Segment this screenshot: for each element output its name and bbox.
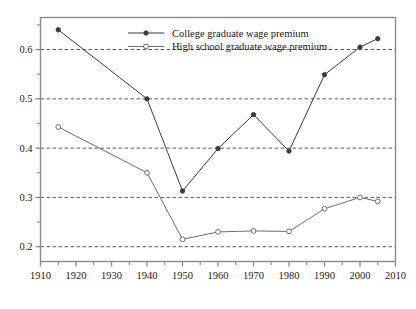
data-point-1980-0.394 [287, 149, 291, 153]
y-tick-label-0.3: 0.3 [19, 192, 32, 203]
x-tick-label-1970: 1970 [243, 270, 264, 281]
x-tick-label-2010: 2010 [385, 270, 406, 281]
legend-label-1: High school graduate wage premium [172, 41, 327, 52]
x-axis-tick-labels: 1910192019301940195019601970198019902000… [30, 270, 406, 281]
data-point-1915-0.64 [56, 28, 60, 32]
x-tick-label-1910: 1910 [30, 270, 51, 281]
x-tick-label-1990: 1990 [314, 270, 335, 281]
x-tick-label-1920: 1920 [66, 270, 87, 281]
legend-label-0: College graduate wage premium [172, 28, 309, 39]
data-point-1980-0.231 [287, 229, 292, 234]
data-point-1970-0.232 [251, 229, 256, 234]
x-tick-label-1940: 1940 [137, 270, 158, 281]
y-tick-label-0.5: 0.5 [19, 93, 32, 104]
x-tick-label-1980: 1980 [279, 270, 300, 281]
data-point-1950-0.215 [180, 237, 185, 242]
chart-canvas: 0.20.30.40.50.6 191019201930194019501960… [0, 0, 416, 309]
data-point-1960-0.399 [216, 146, 220, 150]
x-tick-label-1960: 1960 [208, 270, 229, 281]
data-point-2000-0.605 [358, 45, 362, 49]
y-tick-label-0.6: 0.6 [19, 44, 32, 55]
x-tick-label-2000: 2000 [350, 270, 371, 281]
legend-open-circle-icon [144, 44, 149, 49]
data-point-1940-0.5 [145, 97, 149, 101]
y-tick-label-0.2: 0.2 [19, 241, 32, 252]
data-point-2005-0.292 [375, 199, 380, 204]
wage-premium-line-chart: 0.20.30.40.50.6 191019201930194019501960… [0, 0, 416, 309]
data-point-1950-0.313 [180, 189, 184, 193]
data-point-1940-0.35 [145, 170, 150, 175]
x-tick-label-1950: 1950 [172, 270, 193, 281]
data-point-1970-0.468 [251, 112, 255, 116]
data-point-1990-0.549 [322, 72, 326, 76]
y-tick-label-0.4: 0.4 [19, 143, 33, 154]
data-point-2000-0.3 [358, 195, 363, 200]
data-point-1960-0.23 [216, 230, 221, 235]
x-tick-label-1930: 1930 [101, 270, 122, 281]
data-point-2005-0.622 [376, 37, 380, 41]
data-point-1990-0.277 [322, 206, 327, 211]
legend-filled-circle-icon [144, 31, 148, 35]
data-point-1915-0.443 [56, 125, 61, 130]
